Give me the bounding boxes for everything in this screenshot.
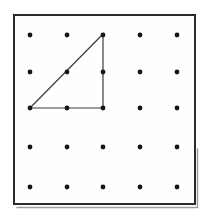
grid-dot — [28, 33, 33, 38]
grid-dot — [65, 145, 70, 150]
grid-dot — [65, 70, 70, 75]
grid-dot — [101, 106, 106, 111]
grid-dot — [101, 33, 106, 38]
grid-dot — [175, 106, 180, 111]
grid-dot — [65, 106, 70, 111]
grid-dot — [28, 70, 33, 75]
geoboard-figure — [0, 0, 205, 219]
grid-dot — [65, 185, 70, 190]
grid-dot — [101, 145, 106, 150]
grid-dot — [28, 145, 33, 150]
grid-dot — [138, 106, 143, 111]
grid-dot — [175, 33, 180, 38]
grid-dot — [101, 70, 106, 75]
grid-dot — [138, 70, 143, 75]
grid-dot — [28, 106, 33, 111]
grid-dot — [101, 185, 106, 190]
grid-dot — [175, 70, 180, 75]
grid-dot — [175, 185, 180, 190]
grid-dot — [65, 33, 70, 38]
figure-canvas — [0, 0, 205, 219]
grid-dot — [175, 145, 180, 150]
grid-dot — [138, 33, 143, 38]
grid-dot — [28, 185, 33, 190]
grid-dot — [138, 185, 143, 190]
grid-dot — [138, 145, 143, 150]
